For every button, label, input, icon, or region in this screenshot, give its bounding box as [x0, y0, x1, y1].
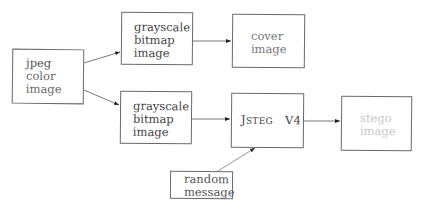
node-grayscale-bitmap-image-top: grayscale bitmap image: [121, 12, 193, 66]
node-random-message: random message: [170, 171, 233, 200]
node-stego-image: stego image: [341, 96, 413, 152]
node-jsteg-v4: JSTEG V4: [231, 93, 304, 149]
node-label: image: [133, 126, 189, 139]
node-cover-image: cover image: [232, 14, 305, 69]
node-label: image: [134, 47, 190, 60]
edge-jpeg-to-gray1: [84, 52, 120, 63]
edge-random-to-jsteg: [218, 148, 255, 171]
node-grayscale-bitmap-image-bottom: grayscale bitmap image: [120, 91, 192, 145]
node-label: message: [184, 186, 235, 199]
node-label: image: [360, 125, 396, 138]
jsteg-smallcaps: STEG: [246, 116, 273, 126]
node-label: JSTEG V4: [241, 114, 301, 129]
node-jpeg-color-image: jpeg color image: [12, 49, 85, 105]
node-label: image: [26, 83, 62, 96]
node-label: image: [251, 43, 287, 56]
edge-jpeg-to-gray2: [84, 90, 119, 105]
jsteg-version: V4: [285, 113, 301, 127]
flow-diagram: jpeg color image grayscale bitmap image …: [0, 0, 423, 216]
